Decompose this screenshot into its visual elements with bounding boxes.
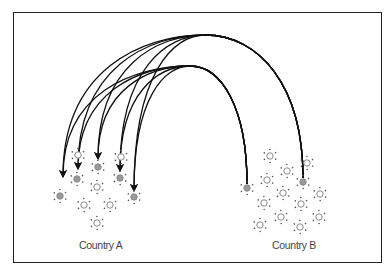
flow-arrow — [120, 35, 303, 178]
country-a-label: Country A — [79, 239, 122, 251]
person-node — [77, 198, 90, 213]
person-node — [90, 216, 103, 231]
person-node-migrant — [53, 189, 66, 204]
flow-arrow — [63, 66, 247, 184]
person-node-migrant — [127, 190, 140, 205]
person-node — [103, 198, 116, 213]
person-node — [260, 173, 273, 188]
person-node — [280, 164, 293, 179]
person-node-migrant — [113, 171, 126, 186]
person-node — [253, 218, 266, 233]
person-node — [90, 180, 103, 195]
person-node — [274, 210, 287, 225]
person-node-migrant — [91, 160, 104, 175]
person-node — [257, 196, 270, 211]
country-a-nodes — [53, 148, 140, 231]
person-node — [276, 186, 289, 201]
flow-arrow — [134, 35, 303, 190]
migration-diagram — [0, 0, 392, 273]
person-node — [294, 197, 307, 212]
country-b-nodes — [240, 149, 326, 235]
country-b-label: Country B — [272, 239, 316, 251]
person-node — [313, 187, 326, 202]
person-node — [263, 149, 276, 164]
person-node — [293, 220, 306, 235]
flow-arrow — [134, 66, 247, 190]
person-node — [312, 210, 325, 225]
person-node-migrant — [70, 172, 83, 187]
